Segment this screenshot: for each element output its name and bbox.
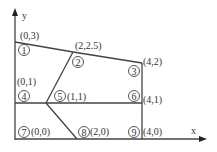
node-9-coord: (4,0) bbox=[143, 126, 162, 138]
node-5-id: 5 bbox=[58, 91, 63, 102]
y-axis-label: y bbox=[22, 10, 27, 21]
node-9-id: 9 bbox=[132, 127, 137, 138]
node-2-coord: (2,2.5) bbox=[75, 40, 102, 52]
node-4-id: 4 bbox=[22, 91, 27, 102]
node-3-id: 3 bbox=[132, 66, 137, 77]
node-6-id: 6 bbox=[132, 91, 137, 102]
node-1-id: 1 bbox=[22, 45, 27, 56]
node-2-id: 2 bbox=[76, 57, 81, 68]
node-7-coord: (0,0) bbox=[31, 126, 50, 138]
edge-5-8 bbox=[46, 103, 77, 139]
node-3-coord: (4,2) bbox=[143, 56, 162, 68]
x-axis-label: x bbox=[191, 125, 196, 136]
node-5-coord: (1,1) bbox=[67, 91, 86, 103]
x-axis-arrow-icon bbox=[199, 136, 207, 142]
node-8-coord: (2,0) bbox=[90, 126, 109, 138]
node-4-coord: (0,1) bbox=[17, 76, 36, 88]
mesh-diagram: y x 1 (0,3) 2 (2,2.5) 3 (4,2) 4 (0,1) 5 … bbox=[0, 0, 217, 152]
node-7-id: 7 bbox=[22, 127, 27, 138]
node-8-id: 8 bbox=[82, 127, 87, 138]
y-axis-arrow-icon bbox=[12, 8, 18, 16]
node-6-coord: (4,1) bbox=[143, 94, 162, 106]
node-1-coord: (0,3) bbox=[20, 30, 39, 42]
